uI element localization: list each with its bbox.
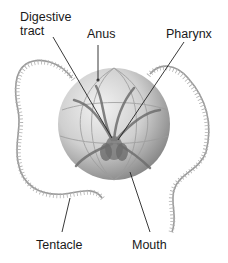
ctenophore-diagram: Digestive tract Anus Pharynx Tentacle Mo…	[0, 0, 228, 263]
label-tentacle: Tentacle	[36, 238, 83, 252]
label-anus: Anus	[87, 27, 116, 41]
label-pharynx: Pharynx	[166, 27, 212, 41]
body-sphere	[58, 68, 170, 180]
label-mouth: Mouth	[132, 238, 167, 252]
label-digestive-line1: Digestive	[20, 10, 71, 24]
label-digestive-tract: Digestive tract	[20, 10, 71, 38]
label-digestive-line2: tract	[20, 24, 71, 38]
